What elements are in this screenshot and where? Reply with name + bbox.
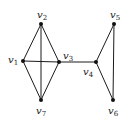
node-label-v7: v7 bbox=[36, 106, 46, 116]
edge-v3-v7 bbox=[41, 62, 59, 100]
edge-v2-v3 bbox=[41, 24, 59, 62]
node-v2 bbox=[39, 22, 43, 26]
node-label-v4: v4 bbox=[83, 67, 93, 77]
graph-diagram bbox=[0, 0, 124, 139]
node-label-v1: v1 bbox=[8, 55, 18, 65]
edge-v4-v6 bbox=[96, 62, 113, 100]
node-v6 bbox=[111, 98, 115, 102]
node-label-v2: v2 bbox=[37, 10, 47, 20]
node-label-v6: v6 bbox=[108, 106, 118, 116]
node-label-v5: v5 bbox=[110, 10, 120, 20]
edge-v1-v7 bbox=[23, 61, 41, 100]
node-label-v3: v3 bbox=[63, 51, 73, 61]
node-v5 bbox=[112, 22, 116, 26]
node-v4 bbox=[94, 60, 98, 64]
edge-v1-v2 bbox=[23, 24, 41, 61]
node-v3 bbox=[57, 60, 61, 64]
edge-v4-v5 bbox=[96, 24, 114, 62]
edge-v5-v6 bbox=[113, 24, 114, 100]
node-v7 bbox=[39, 98, 43, 102]
node-v1 bbox=[21, 59, 25, 63]
